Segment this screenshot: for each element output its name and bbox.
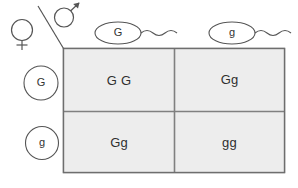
punnett-cell-row2-col1-area [64,112,174,172]
punnett-cell-row1-col2-area [175,49,284,111]
punnett-cell-row2-col2-area [175,112,284,172]
female-symbol [12,20,33,51]
egg-gamete-g [26,127,59,160]
male-symbol [55,3,80,28]
egg-gamete-G [24,66,58,100]
punnett-cell-row1-col1-area [64,49,174,111]
parent-divider-diagonal [38,6,64,49]
diagram-canvas [0,0,298,188]
punnett-square-diagram: G g G g G G Gg Gg gg [0,0,298,188]
sperm-gamete-G [95,22,177,44]
sperm-gamete-g [209,22,291,44]
